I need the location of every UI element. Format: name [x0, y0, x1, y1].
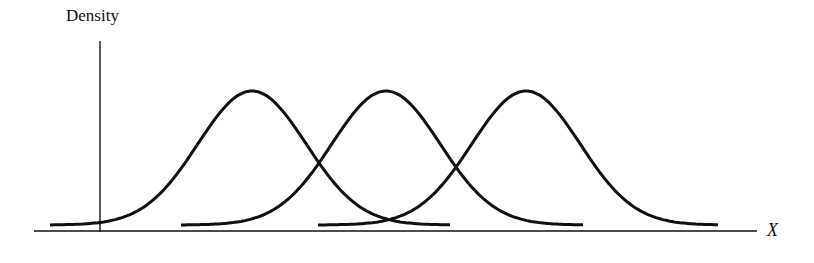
density-curve-3	[318, 91, 718, 225]
density-chart	[0, 0, 814, 263]
density-curve-2	[181, 91, 583, 225]
y-axis-label: Density	[66, 6, 119, 26]
density-curves	[50, 91, 718, 225]
x-axis-label: X	[767, 220, 778, 241]
density-curve-1	[50, 91, 450, 225]
